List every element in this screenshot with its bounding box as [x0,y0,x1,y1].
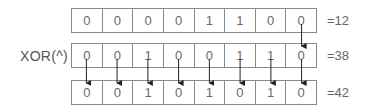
arrows-layer [0,0,368,111]
